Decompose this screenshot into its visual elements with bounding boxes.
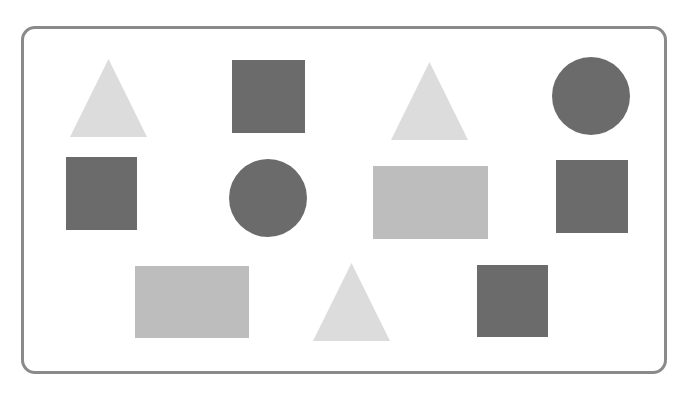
square-3-shape xyxy=(556,160,628,233)
square-1-shape xyxy=(232,60,305,133)
rectangle-2-shape xyxy=(135,266,249,338)
square-4-shape xyxy=(477,265,548,337)
circle-2-shape xyxy=(229,159,307,237)
triangle-1-shape xyxy=(70,59,147,137)
triangle-3-shape xyxy=(313,263,390,341)
rectangle-1-shape xyxy=(373,166,488,239)
triangle-2-shape xyxy=(391,62,468,140)
square-2-shape xyxy=(66,157,137,230)
circle-1-shape xyxy=(552,57,630,135)
